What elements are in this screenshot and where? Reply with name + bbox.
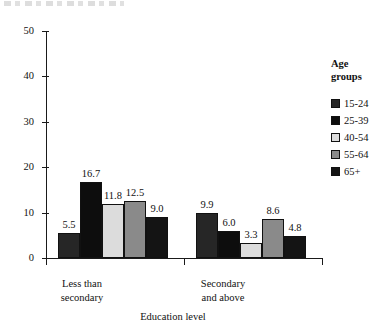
bar	[196, 213, 218, 258]
bar	[58, 233, 80, 258]
legend-item-label: 25-39	[344, 115, 369, 126]
bar-value-label: 16.7	[82, 168, 100, 179]
bar	[284, 236, 306, 258]
bar	[80, 182, 102, 258]
legend-item-label: 55-64	[344, 149, 369, 160]
legend-item-40-54[interactable]: 40-54	[331, 129, 386, 146]
bar-value-label: 3.3	[244, 229, 257, 240]
legend-swatch-icon	[331, 133, 340, 142]
legend-title-line1: Age	[331, 57, 386, 70]
legend-swatch-icon	[331, 116, 340, 125]
legend-swatch-icon	[331, 150, 340, 159]
bar-value-label: 4.8	[288, 222, 301, 233]
legend-item-label: 40-54	[344, 132, 369, 143]
category-label-secondary-and-above: Secondary and above	[163, 277, 283, 305]
bar-value-label: 8.6	[266, 205, 279, 216]
category-label-less-than-secondary: Less than secondary	[22, 277, 142, 305]
legend-item-15-24[interactable]: 15-24	[331, 95, 386, 112]
legend-item-55-64[interactable]: 55-64	[331, 146, 386, 163]
bar-value-label: 9.9	[200, 199, 213, 210]
bar-chart-plot-area: 01020304050 5.516.711.812.59.09.96.03.38…	[0, 0, 386, 329]
y-axis-tick-label: 20	[8, 162, 34, 172]
legend-swatch-icon	[331, 99, 340, 108]
bar-value-label: 5.5	[62, 219, 75, 230]
y-axis-tick	[42, 31, 49, 32]
x-axis-tick	[46, 258, 47, 265]
y-axis-tick-label: 0	[8, 253, 34, 263]
bar	[218, 231, 240, 258]
legend-item-label: 65+	[344, 166, 360, 177]
legend-items: 15-2425-3940-5455-6465+	[331, 95, 386, 180]
category-label-line1: Less than	[22, 277, 142, 291]
category-label-line2: and above	[163, 291, 283, 305]
bar	[262, 219, 284, 258]
bar-value-label: 6.0	[222, 217, 235, 228]
bar-value-label: 11.8	[104, 190, 122, 201]
y-axis-tick-label: 10	[8, 208, 34, 218]
legend: Age groups 15-2425-3940-5455-6465+	[331, 57, 386, 180]
bar	[146, 217, 168, 258]
legend-item-65plus[interactable]: 65+	[331, 163, 386, 180]
y-axis-tick-label: 30	[8, 117, 34, 127]
y-axis-line	[46, 31, 47, 259]
legend-title-line2: groups	[331, 70, 386, 83]
y-axis-tick	[42, 122, 49, 123]
legend-swatch-icon	[331, 167, 340, 176]
y-axis-tick-label: 50	[8, 26, 34, 36]
bar-value-label: 9.0	[150, 203, 163, 214]
bar	[102, 204, 124, 258]
category-label-line1: Secondary	[163, 277, 283, 291]
legend-item-label: 15-24	[344, 98, 369, 109]
bar	[240, 243, 262, 258]
legend-item-25-39[interactable]: 25-39	[331, 112, 386, 129]
bar	[124, 201, 146, 258]
x-axis-title: Education level	[93, 311, 253, 322]
y-axis-tick-label: 40	[8, 71, 34, 81]
x-axis-tick	[322, 258, 323, 265]
y-axis-tick	[42, 213, 49, 214]
y-axis-tick	[42, 76, 49, 77]
x-axis-tick	[184, 258, 185, 265]
y-axis-tick	[42, 167, 49, 168]
chart-canvas: 01020304050 5.516.711.812.59.09.96.03.38…	[0, 0, 386, 329]
category-label-line2: secondary	[22, 291, 142, 305]
bar-value-label: 12.5	[126, 187, 144, 198]
